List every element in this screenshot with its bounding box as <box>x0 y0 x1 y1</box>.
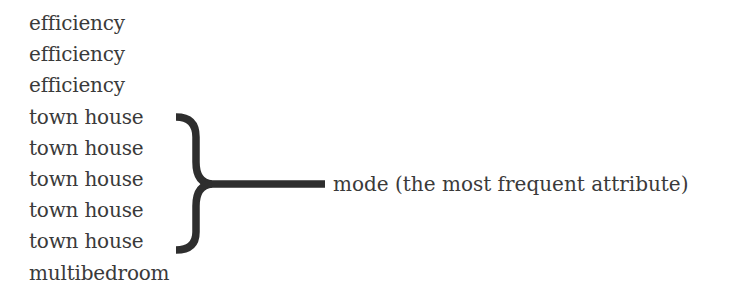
curly-brace-connector-icon <box>0 0 747 303</box>
mode-annotation: mode (the most frequent attribute) <box>333 170 689 198</box>
